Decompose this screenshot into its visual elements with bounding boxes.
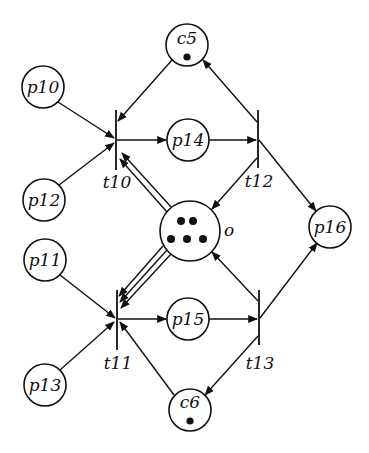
place-p11[interactable]: p11 xyxy=(24,239,66,281)
transition-label-t12: t12 xyxy=(245,171,273,191)
place-label: p14 xyxy=(172,130,205,150)
arc-o-t11-c xyxy=(121,254,171,308)
token xyxy=(186,417,193,424)
transition-label-t13: t13 xyxy=(246,353,274,373)
token xyxy=(183,53,190,60)
transition-label-t10: t10 xyxy=(103,172,132,192)
place-label: p15 xyxy=(172,309,205,329)
place-p10[interactable]: p10 xyxy=(22,66,64,108)
diagram-svg: c5 p10 p14 p12 o p16 xyxy=(0,0,369,453)
arc-o-t11-b xyxy=(120,250,167,302)
place-o[interactable]: o xyxy=(160,201,234,261)
place-c6[interactable]: c6 xyxy=(169,389,211,431)
arc-t13-o xyxy=(212,252,258,301)
place-label: p12 xyxy=(28,190,61,210)
arc-o-t11-a xyxy=(119,246,163,296)
place-label: c6 xyxy=(180,392,201,412)
petri-net-diagram: c5 p10 p14 p12 o p16 xyxy=(0,0,369,453)
place-label: p16 xyxy=(314,217,347,237)
token xyxy=(177,217,185,225)
place-label: p10 xyxy=(27,77,60,97)
place-p12[interactable]: p12 xyxy=(23,179,65,221)
token xyxy=(183,235,191,243)
place-p16[interactable]: p16 xyxy=(309,206,351,248)
place-label: p13 xyxy=(29,375,62,395)
places: c5 p10 p14 p12 o p16 xyxy=(22,24,351,431)
arc-c5-t10 xyxy=(118,60,172,121)
arc-t12-c5 xyxy=(203,60,257,122)
place-label: o xyxy=(224,220,234,240)
token xyxy=(167,235,175,243)
arc-p11-t11 xyxy=(60,275,115,318)
place-label: p11 xyxy=(29,250,62,270)
place-p14[interactable]: p14 xyxy=(167,119,209,161)
place-c5[interactable]: c5 xyxy=(166,24,208,66)
transition-label-t11: t11 xyxy=(104,353,132,373)
place-p13[interactable]: p13 xyxy=(24,364,66,406)
place-label: c5 xyxy=(177,28,197,48)
token xyxy=(199,235,207,243)
place-p15[interactable]: p15 xyxy=(167,298,209,340)
token xyxy=(189,217,197,225)
arc-p10-t10 xyxy=(58,102,114,138)
arc-t13-p16 xyxy=(260,243,317,318)
